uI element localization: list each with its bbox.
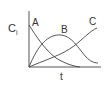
curve-label-b: B xyxy=(61,24,68,35)
y-axis-label: Ci xyxy=(8,22,18,36)
curve-label-a: A xyxy=(32,17,39,28)
curve-label-c: C xyxy=(89,16,96,27)
curve-a xyxy=(29,25,80,67)
concentration-time-chart: Ci A B C t xyxy=(0,0,105,90)
x-axis-label: t xyxy=(60,71,63,82)
